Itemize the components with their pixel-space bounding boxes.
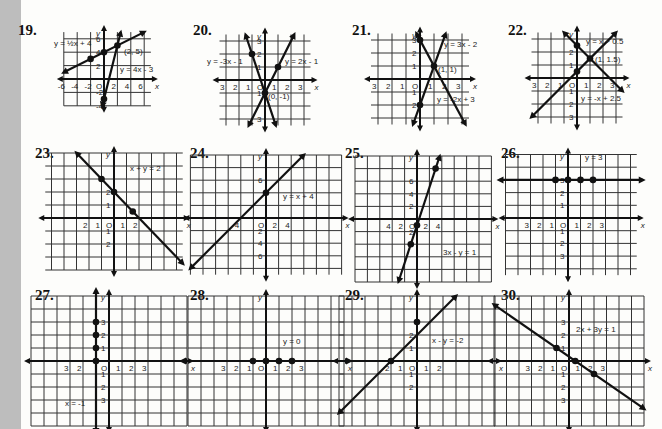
svg-text:x: x bbox=[647, 364, 653, 373]
svg-text:3: 3 bbox=[561, 318, 566, 327]
svg-text:2: 2 bbox=[561, 383, 566, 392]
svg-text:1: 1 bbox=[551, 364, 556, 373]
axes bbox=[487, 289, 651, 429]
plotted-point bbox=[572, 358, 579, 365]
plotted-point bbox=[591, 371, 598, 378]
coordinate-graph: xyO3211233211232x + 3y = 1 bbox=[0, 0, 662, 429]
equation-label: 2x + 3y = 1 bbox=[576, 325, 616, 334]
plotted-point bbox=[553, 345, 560, 352]
svg-text:3: 3 bbox=[601, 364, 606, 373]
svg-text:3: 3 bbox=[561, 396, 566, 405]
svg-text:2: 2 bbox=[561, 331, 566, 340]
svg-text:3: 3 bbox=[526, 364, 531, 373]
svg-text:1: 1 bbox=[561, 370, 566, 379]
svg-text:2: 2 bbox=[538, 364, 543, 373]
svg-text:y: y bbox=[560, 293, 566, 302]
